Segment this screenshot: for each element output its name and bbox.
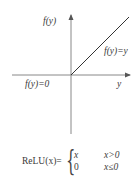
- positive-branch-label: f(y)=y: [104, 46, 128, 56]
- case-1-condition: x>0: [104, 150, 119, 160]
- x-axis-label: y: [117, 79, 121, 89]
- y-axis-label: f(y): [43, 16, 56, 26]
- formula-name: ReLU(x)=: [22, 156, 62, 166]
- relu-formula: ReLU(x)= { x x>0 0 x≤0: [22, 147, 134, 177]
- case-2-condition: x≤0: [104, 162, 118, 172]
- negative-branch-label: f(y)=0: [25, 79, 49, 89]
- case-2-value: 0: [74, 162, 79, 172]
- case-1-value: x: [74, 150, 78, 160]
- relu-plot: [0, 0, 138, 140]
